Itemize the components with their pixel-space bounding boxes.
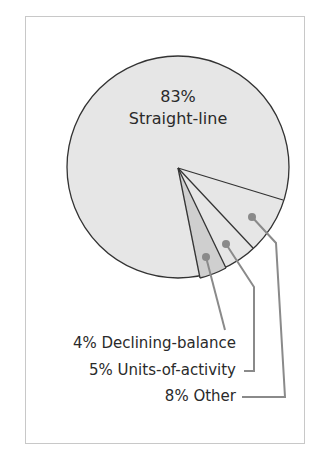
pie-chart [0, 0, 319, 457]
straight-line-name: Straight-line [118, 108, 238, 130]
straight-line-label: 83% Straight-line [118, 86, 238, 130]
label-declining-balance: 4% Declining-balance [73, 334, 236, 352]
straight-line-percent: 83% [118, 86, 238, 108]
label-other: 8% Other [165, 387, 236, 405]
label-units-of-activity: 5% Units-of-activity [89, 361, 236, 379]
